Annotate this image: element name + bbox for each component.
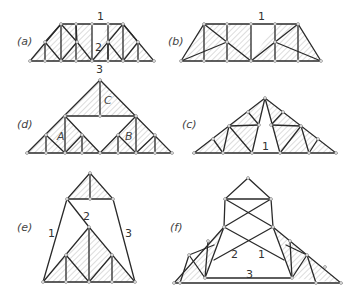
panel-d: (d) A B C: [17, 79, 173, 155]
svg-text:1: 1: [258, 248, 265, 261]
panel-b: (b) 1: [168, 10, 322, 62]
svg-text:(a): (a): [17, 35, 32, 48]
svg-text:1: 1: [262, 140, 269, 153]
svg-text:2: 2: [95, 41, 102, 54]
truss-figure: (a) 1 2 3 (b) 1: [0, 0, 359, 296]
panel-c: (c) 1: [182, 97, 337, 155]
svg-text:(c): (c): [182, 118, 197, 131]
svg-text:(b): (b): [168, 35, 184, 48]
svg-text:A: A: [56, 130, 65, 143]
svg-text:2: 2: [83, 210, 90, 223]
svg-text:2: 2: [231, 248, 238, 261]
svg-text:(f): (f): [170, 221, 182, 234]
svg-text:3: 3: [125, 227, 132, 240]
svg-text:1: 1: [258, 10, 265, 23]
svg-text:C: C: [104, 94, 112, 107]
panel-e: (e) 1 2 3: [17, 172, 136, 284]
svg-text:1: 1: [48, 227, 55, 240]
svg-text:B: B: [125, 130, 133, 143]
panel-f: (f) 2 1 3: [170, 177, 342, 285]
svg-text:(e): (e): [17, 221, 32, 234]
svg-text:3: 3: [246, 268, 253, 281]
svg-text:1: 1: [97, 10, 104, 23]
svg-text:3: 3: [96, 63, 103, 76]
svg-text:(d): (d): [17, 118, 33, 131]
panel-a: (a) 1 2 3: [17, 10, 155, 76]
